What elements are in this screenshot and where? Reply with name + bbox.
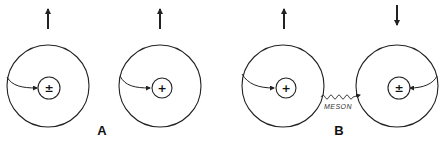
nucleus-charge-label: ± — [394, 82, 403, 95]
electron-path-arrow — [120, 76, 150, 88]
atom-1: ± — [7, 9, 89, 127]
electron-path-arrow — [410, 76, 437, 88]
nucleus-charge-label: + — [157, 82, 166, 95]
meson-wavy-arrow — [321, 95, 360, 99]
panel-b: + MESON ± B — [242, 5, 438, 138]
atom-4: ± — [356, 5, 438, 127]
nucleus-charge-label: ± — [44, 82, 53, 95]
atom-3: + — [242, 9, 324, 127]
nucleus-charge-label: + — [281, 82, 290, 95]
electron-path-arrow — [7, 77, 37, 88]
panel-label-a: A — [97, 123, 107, 138]
meson-exchange-diagram: ± + A + MESON — [0, 0, 447, 142]
meson-exchange: MESON — [321, 95, 360, 110]
panel-label-b: B — [334, 123, 343, 138]
panel-a: ± + A — [7, 9, 201, 138]
meson-label: MESON — [324, 103, 353, 110]
atom-2: + — [119, 9, 201, 127]
electron-path-arrow — [242, 74, 274, 88]
